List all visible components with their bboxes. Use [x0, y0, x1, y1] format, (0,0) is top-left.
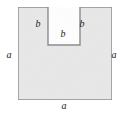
geometry-figure: a a a b b b — [0, 0, 122, 115]
u-shape-polygon — [18, 7, 112, 100]
dimension-label-right-side: a — [112, 50, 117, 60]
figure-canvas — [0, 0, 122, 115]
dimension-label-notch-left-wall: b — [36, 19, 41, 29]
dimension-label-notch-floor: b — [61, 29, 66, 39]
dimension-label-notch-right-wall: b — [80, 19, 85, 29]
dimension-label-bottom-side: a — [62, 101, 67, 111]
dimension-label-left-side: a — [7, 50, 12, 60]
